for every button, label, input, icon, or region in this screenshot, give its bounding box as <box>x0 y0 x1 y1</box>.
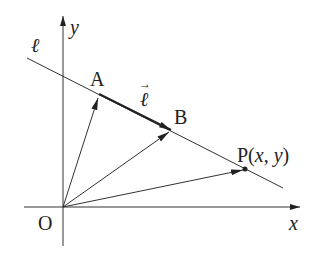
vector-oa <box>63 98 98 207</box>
point-p-dot <box>243 167 248 172</box>
diagram-canvas: y x O ℓ A B ℓ → P(x, y) <box>0 0 324 256</box>
direction-vector-label: ℓ <box>140 88 149 110</box>
direction-vector-ab <box>99 94 171 130</box>
point-p-sep: , <box>264 144 274 166</box>
line-l-label: ℓ <box>31 34 40 56</box>
x-axis-label: x <box>288 212 298 234</box>
point-p-x: x <box>254 144 264 166</box>
point-p-y: y <box>272 144 283 167</box>
point-a-label: A <box>90 68 105 90</box>
point-p-label: P(x, y) <box>237 144 289 167</box>
point-p-suffix: ) <box>283 144 290 167</box>
direction-vector-arrow-mark: → <box>139 77 151 91</box>
y-axis-label: y <box>68 16 79 39</box>
origin-label: O <box>38 212 52 234</box>
point-b-label: B <box>174 106 187 128</box>
point-p-prefix: P( <box>237 144 255 167</box>
